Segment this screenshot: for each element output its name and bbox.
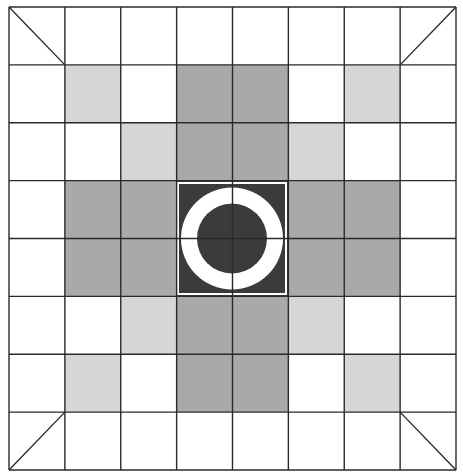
grid-cell (400, 354, 456, 412)
grid-cell (288, 123, 344, 181)
grid-cell (65, 412, 121, 470)
grid-cell (233, 7, 289, 65)
grid-cell (344, 239, 400, 297)
grid-cell (65, 7, 121, 65)
grid-cell (177, 7, 233, 65)
grid-cell (400, 239, 456, 297)
grid-cell (344, 7, 400, 65)
grid-cell (288, 239, 344, 297)
grid-cell (9, 65, 65, 123)
grid-cell (344, 296, 400, 354)
grid-cell (121, 296, 177, 354)
grid-cell (344, 65, 400, 123)
grid-cell (288, 65, 344, 123)
grid-cell (288, 296, 344, 354)
grid-cell (121, 65, 177, 123)
grid-cell (121, 123, 177, 181)
grid-cell (344, 181, 400, 239)
grid-cell (121, 354, 177, 412)
grid-cell (233, 65, 289, 123)
square-grid-pattern (0, 0, 463, 476)
grid-cell (177, 123, 233, 181)
grid-cell (344, 123, 400, 181)
grid-cell (233, 123, 289, 181)
grid-cell (177, 354, 233, 412)
grid-cell (9, 354, 65, 412)
grid-cell (121, 239, 177, 297)
grid-cell (65, 239, 121, 297)
grid-cell (9, 181, 65, 239)
grid-cell (65, 296, 121, 354)
grid-cell (400, 181, 456, 239)
grid-cell (9, 296, 65, 354)
grid-cell (233, 354, 289, 412)
grid-cell (9, 239, 65, 297)
grid-cell (344, 354, 400, 412)
grid-cell (65, 354, 121, 412)
grid-cell (344, 412, 400, 470)
grid-cell (121, 412, 177, 470)
grid-cell (400, 123, 456, 181)
grid-cell (288, 181, 344, 239)
pattern-diagram (0, 0, 463, 476)
grid-cell (177, 296, 233, 354)
grid-cell (177, 412, 233, 470)
grid-cell (9, 123, 65, 181)
grid-cell (65, 181, 121, 239)
grid-cell (288, 7, 344, 65)
grid-cell (400, 296, 456, 354)
grid-cell (233, 296, 289, 354)
grid-cell (121, 181, 177, 239)
grid-cell (288, 412, 344, 470)
grid-cell (121, 7, 177, 65)
grid-cell (65, 65, 121, 123)
grid-cell (400, 65, 456, 123)
grid-cell (233, 412, 289, 470)
grid-cell (177, 65, 233, 123)
grid-cell (65, 123, 121, 181)
grid-cell (288, 354, 344, 412)
